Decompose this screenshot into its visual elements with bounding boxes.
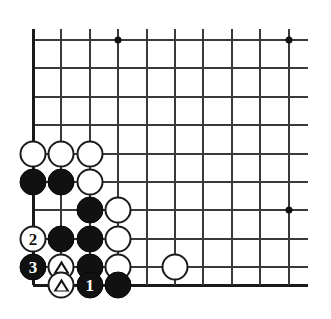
grid-line-horizontal-6 bbox=[33, 209, 308, 211]
star-point-top-right bbox=[285, 37, 292, 44]
grid-line-horizontal-3 bbox=[33, 124, 308, 126]
black-stone-d6[interactable] bbox=[105, 272, 132, 299]
white-stone-d3[interactable] bbox=[105, 197, 132, 224]
grid-line-vertical-5 bbox=[174, 29, 176, 285]
black-stone-c3[interactable] bbox=[76, 197, 103, 224]
triangle-marker-icon bbox=[53, 279, 69, 292]
black-stone-a2[interactable] bbox=[20, 169, 47, 196]
white-stone-f5[interactable] bbox=[162, 254, 189, 281]
grid-line-horizontal-1 bbox=[33, 67, 308, 69]
white-stone-b1[interactable] bbox=[48, 140, 75, 167]
move-number-label: 1 bbox=[86, 277, 95, 294]
move-number-label: 3 bbox=[29, 259, 38, 276]
white-stone-c2[interactable] bbox=[76, 169, 103, 196]
black-stone-b4[interactable] bbox=[48, 225, 75, 252]
grid-line-vertical-7 bbox=[231, 29, 233, 285]
grid-line-vertical-8 bbox=[259, 29, 261, 285]
go-board-diagram: 231 bbox=[0, 0, 331, 319]
star-point-right bbox=[285, 207, 292, 214]
white-stone-c1[interactable] bbox=[76, 140, 103, 167]
grid-line-horizontal-2 bbox=[33, 96, 308, 98]
black-stone-c4[interactable] bbox=[76, 225, 103, 252]
grid-line-horizontal-0 bbox=[33, 39, 308, 41]
grid-line-vertical-9 bbox=[288, 29, 290, 285]
star-point-top-left bbox=[115, 37, 122, 44]
black-stone-move-1[interactable]: 1 bbox=[76, 272, 103, 299]
black-stone-move-3[interactable]: 3 bbox=[20, 254, 47, 281]
white-stone-d4[interactable] bbox=[105, 225, 132, 252]
grid-line-vertical-6 bbox=[202, 29, 204, 285]
move-number-label: 2 bbox=[29, 230, 38, 247]
white-stone-a1[interactable] bbox=[20, 140, 47, 167]
white-stone-triangle-b6[interactable] bbox=[48, 272, 75, 299]
white-stone-move-2[interactable]: 2 bbox=[20, 225, 47, 252]
grid-line-vertical-4 bbox=[146, 29, 148, 285]
black-stone-b2[interactable] bbox=[48, 169, 75, 196]
